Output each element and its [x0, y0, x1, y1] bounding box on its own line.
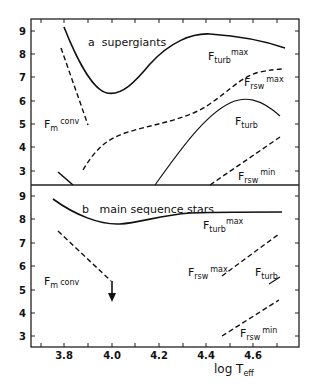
y-tick-label: 4 [19, 142, 26, 153]
panel-b-label-frsw-max: Frswmax [188, 265, 228, 281]
y-tick-label: 3 [19, 166, 26, 177]
panel-a-y-ticks [31, 31, 299, 171]
x-tick-label: 4.2 [150, 350, 168, 361]
y-tick-label: 9 [19, 26, 26, 37]
y-tick-label: 8 [19, 214, 26, 225]
panel-b-label-fturb-max: Fturbmax [203, 217, 244, 234]
y-tick-label: 7 [19, 238, 26, 249]
panel-b-label-fm-conv: Fmconv [44, 275, 79, 290]
panel-b-label-frsw-min: Frswmin [240, 326, 277, 342]
arrow-down-icon [108, 281, 116, 302]
panel-a-label-frsw-max: Frswmax [244, 75, 284, 91]
x-tick-label: 4.6 [244, 350, 262, 361]
x-tick-label: 4.4 [197, 350, 215, 361]
y-tick-label: 4 [19, 308, 26, 319]
x-tick-label: 4.0 [103, 350, 121, 361]
y-tick-label: 3 [19, 331, 26, 342]
y-tick-label: 7 [19, 72, 26, 83]
panel-b-y-tick-labels: 9 8 7 6 5 4 3 [19, 191, 26, 342]
x-tick-labels: 3.8 4.0 4.2 4.4 4.6 [55, 350, 262, 361]
panel-a-label-fturb-max: Fturbmax [208, 48, 249, 65]
y-tick-label: 5 [19, 285, 26, 296]
svg-text:log Teff: log Teff [214, 362, 254, 378]
y-tick-label: 6 [19, 261, 26, 272]
x-tick-label: 3.8 [55, 350, 73, 361]
y-tick-label: 5 [19, 119, 26, 130]
panel-a-label-frsw-min: Frswmin [238, 168, 275, 185]
panel-a-title: a supergiants [88, 36, 167, 49]
panel-b-label-fturb: Fturb [255, 266, 278, 281]
panel-b-fm-conv-curve [58, 231, 111, 281]
y-tick-label: 8 [19, 49, 26, 60]
panel-a-label-fturb: Fturb [235, 115, 258, 130]
y-tick-label: 9 [19, 191, 26, 202]
panel-a-label-fm-conv: Fmconv [44, 117, 79, 133]
figure: 9 8 7 6 5 4 3 9 8 7 6 5 4 3 3.8 4.0 4.2 … [0, 0, 317, 391]
panel-a-fm-conv-curve [61, 48, 88, 125]
panel-b-frsw-max-curve [222, 234, 279, 276]
x-axis-label: log Teff [214, 362, 254, 378]
y-tick-label: 6 [19, 96, 26, 107]
panel-a-short-segment [58, 172, 73, 185]
panel-a-y-tick-labels: 9 8 7 6 5 4 3 [19, 26, 26, 177]
panel-b-title: b main sequence stars [82, 203, 214, 216]
